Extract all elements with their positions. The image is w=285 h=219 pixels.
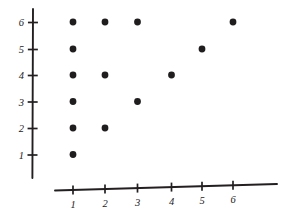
x-tick-label: 4: [169, 196, 175, 207]
y-axis-tick-labels: 123456: [18, 17, 25, 161]
x-axis-tick-labels: 123456: [70, 194, 236, 209]
y-axis-line: [32, 9, 33, 178]
x-tick-label: 1: [70, 199, 75, 210]
y-tick-label: 1: [19, 150, 24, 161]
y-tick-label: 6: [19, 17, 25, 28]
data-point: [102, 19, 109, 26]
x-tick-label: 6: [230, 194, 236, 205]
x-tick-label: 3: [134, 197, 140, 208]
data-point: [70, 151, 77, 158]
data-points-layer: [70, 19, 237, 158]
y-tick-label: 2: [19, 123, 25, 134]
data-point: [230, 19, 237, 26]
data-point: [70, 72, 77, 79]
data-point: [134, 98, 141, 105]
data-point: [102, 72, 109, 79]
chart-canvas: 123456 123456: [0, 0, 285, 219]
scatter-plot-figure: 123456 123456: [0, 0, 285, 219]
data-point: [70, 46, 77, 53]
x-tick-label: 5: [199, 195, 204, 206]
x-tick-label: 2: [102, 198, 108, 209]
x-axis-line: [55, 184, 277, 191]
data-point: [70, 19, 77, 26]
data-point: [70, 125, 77, 132]
y-tick-label: 3: [18, 97, 24, 108]
data-point: [168, 72, 175, 79]
x-axis: [55, 184, 277, 191]
data-point: [102, 125, 109, 132]
y-tick-label: 4: [19, 70, 25, 81]
data-point: [134, 19, 141, 26]
y-tick-label: 5: [19, 44, 24, 55]
y-axis: [32, 9, 33, 178]
data-point: [199, 46, 206, 53]
data-point: [70, 98, 77, 105]
